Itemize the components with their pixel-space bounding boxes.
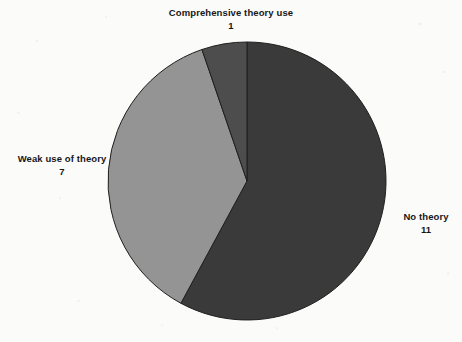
pie-label-weak-use-of-theory: Weak use of theory 7 [6, 152, 118, 178]
pie-label-weak-use-of-theory-text: Weak use of theory [18, 153, 107, 164]
chart-page: Comprehensive theory use 1 Weak use of t… [0, 0, 462, 342]
pie-label-no-theory: No theory 11 [392, 210, 460, 236]
pie-label-comprehensive-theory-use-text: Comprehensive theory use [169, 7, 293, 18]
pie-label-comprehensive-theory-use-value: 1 [0, 19, 462, 32]
pie-label-no-theory-value: 11 [392, 223, 460, 236]
pie-label-no-theory-text: No theory [403, 211, 448, 222]
pie-label-weak-use-of-theory-value: 7 [6, 165, 118, 178]
pie-label-comprehensive-theory-use: Comprehensive theory use 1 [0, 6, 462, 32]
pie-slice-group [108, 42, 386, 320]
